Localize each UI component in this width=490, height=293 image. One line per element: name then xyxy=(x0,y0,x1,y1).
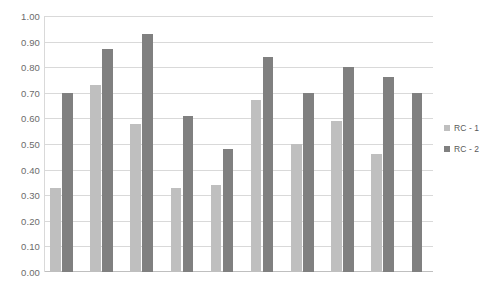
bar xyxy=(291,144,302,272)
y-axis-tick-label: 0.30 xyxy=(0,190,40,201)
bar xyxy=(263,57,274,272)
y-axis-tick-label: 0.60 xyxy=(0,113,40,124)
legend-swatch-icon xyxy=(444,146,450,152)
y-axis-tick-label: 0.90 xyxy=(0,36,40,47)
bar xyxy=(211,185,222,272)
bar xyxy=(171,188,182,272)
legend-item[interactable]: RC - 2 xyxy=(444,138,490,159)
bar xyxy=(62,93,73,272)
bar xyxy=(50,188,61,272)
bar xyxy=(102,49,113,272)
bar xyxy=(142,34,153,272)
bar xyxy=(371,154,382,272)
bar xyxy=(90,85,101,272)
y-axis-tick-labels: 1.000.900.800.700.600.500.400.300.200.10… xyxy=(0,16,40,272)
y-axis-tick-label: 0.50 xyxy=(0,139,40,150)
y-axis-tick-label: 0.80 xyxy=(0,62,40,73)
y-axis-tick-label: 0.20 xyxy=(0,215,40,226)
legend-swatch-icon xyxy=(444,125,450,131)
legend-label: RC - 2 xyxy=(454,144,479,154)
bar xyxy=(223,149,234,272)
y-axis-tick-label: 0.40 xyxy=(0,164,40,175)
y-axis-tick-label: 0.10 xyxy=(0,241,40,252)
plot-area xyxy=(44,16,433,272)
y-axis-tick-label: 1.00 xyxy=(0,11,40,22)
legend-label: RC - 1 xyxy=(454,123,479,133)
legend-item[interactable]: RC - 1 xyxy=(444,117,490,138)
bar xyxy=(343,67,354,272)
chart-legend: RC - 1RC - 2 xyxy=(444,117,490,159)
y-axis-tick-label: 0.00 xyxy=(0,267,40,278)
bar xyxy=(412,93,423,272)
bars-layer xyxy=(44,16,433,272)
bar xyxy=(303,93,314,272)
bar xyxy=(383,77,394,272)
bar xyxy=(183,116,194,272)
bar-chart: 1.000.900.800.700.600.500.400.300.200.10… xyxy=(0,0,490,293)
bar xyxy=(251,100,262,272)
y-axis-tick-label: 0.70 xyxy=(0,87,40,98)
bar xyxy=(130,124,141,272)
bar xyxy=(331,121,342,272)
